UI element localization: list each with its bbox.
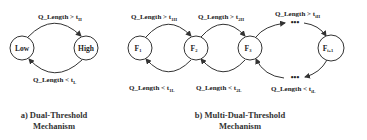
caption-b-line2: Mechanism: [180, 121, 300, 132]
ellipsis-upper: •••: [291, 18, 300, 27]
edge-f3-to-f2: [201, 59, 245, 72]
caption-a: a) Dual-Threshold Mechanism: [6, 110, 102, 132]
edge-dots-to-f3: [256, 59, 284, 78]
edge-f1-to-f2: [146, 24, 191, 37]
caption-a-line1: a) Dual-Threshold: [6, 110, 102, 121]
edge-label-f2-f1: Q_Length < t1L: [129, 84, 174, 93]
edge-label-f1-f2: Q_Length > t1H: [131, 13, 177, 22]
caption-b-line1: b) Multi-Dual-Threshold: [180, 110, 300, 121]
edge-f2-to-f1: [146, 59, 191, 72]
edge-f2-to-f3: [201, 24, 245, 37]
edge-label-f3-f2: Q_Length < t2L: [196, 84, 241, 93]
edge-high-to-low: [29, 59, 82, 73]
dual-threshold-diagram: Low High Q_Length > tH Q_Length < tL: [10, 13, 98, 85]
edge-label-fi1-f3: Q_Length < tiL: [271, 85, 315, 94]
edge-label-up: Q_Length > tH: [38, 13, 82, 22]
caption-b: b) Multi-Dual-Threshold Mechanism: [180, 110, 300, 132]
edge-dots-to-fi1: [304, 23, 326, 36]
edge-fi1-to-dots: [305, 60, 327, 77]
edge-label-down: Q_Length < tL: [33, 76, 76, 85]
edge-f3-to-dots: [256, 23, 285, 37]
edge-label-f3-fi1: Q_Length > tiH: [275, 10, 320, 19]
node-low-label: Low: [15, 44, 30, 53]
caption-a-line2: Mechanism: [6, 121, 102, 132]
multi-dual-threshold-diagram: ••• ••• F1 F2 F3 Fi+1 Q_Length > t1H Q_L…: [128, 10, 344, 94]
edge-label-f2-f3: Q_Length > t2H: [198, 13, 244, 22]
edge-low-to-high: [28, 23, 81, 37]
ellipsis-lower: •••: [291, 73, 300, 82]
node-high-label: High: [78, 44, 95, 53]
